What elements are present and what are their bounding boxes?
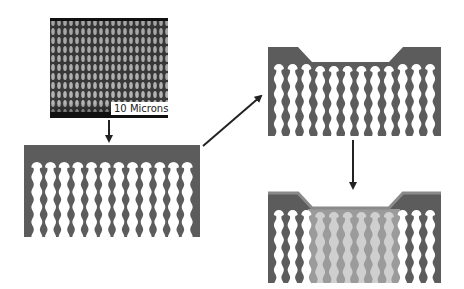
- recessed-panel: [268, 47, 441, 136]
- arrow-diagonal-icon: [203, 96, 261, 146]
- etched-pore-panel: [24, 145, 200, 237]
- scale-bar-label: 10 Microns: [111, 102, 171, 115]
- process-diagram: [0, 0, 464, 289]
- filled-recess-panel: [268, 193, 441, 283]
